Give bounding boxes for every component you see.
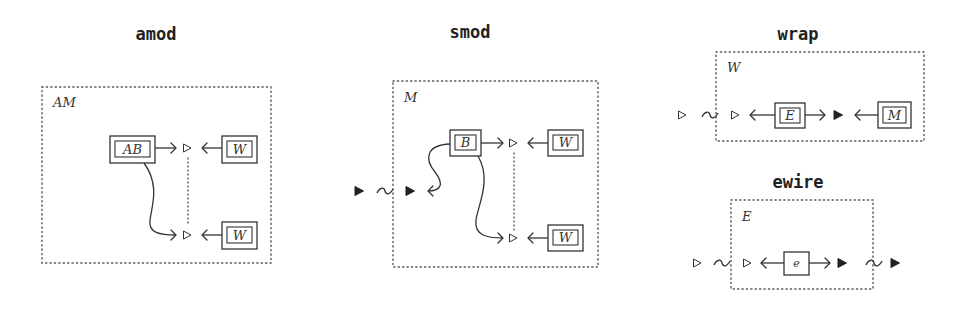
amod-ab-box: AB [110,136,155,163]
ewire-e-label: e [793,257,800,270]
smod-frame-label: M [403,90,418,105]
amod-ab-label: AB [122,142,142,157]
amod-w-box-bottom: W [222,222,257,249]
hollow-triangle-icon [184,144,192,152]
ewire-title: ewire [772,172,823,192]
tilde-icon [866,260,882,266]
hollow-triangle-icon [510,234,518,242]
smod-title: smod [450,22,491,42]
amod-w-label-top: W [233,142,248,157]
diagram-canvas: amod AM AB W W [0,0,964,312]
amod-frame-label: AM [52,95,76,110]
hollow-triangle-icon [510,139,518,147]
wrap-e-box: E [775,103,805,128]
smod-w-box-top: W [548,130,583,156]
ewire-frame-label: E [741,209,752,224]
wrap-title: wrap [778,24,819,44]
smod-panel: smod M B W [355,22,598,267]
smod-w-label-top: W [559,135,574,150]
amod-w-label-bottom: W [233,228,248,243]
filled-triangle-icon [838,259,847,268]
wrap-m-box: M [878,102,911,128]
wrap-e-label: E [784,108,795,123]
hollow-triangle-icon [732,111,740,119]
wrap-frame-label: W [727,60,742,75]
smod-b-label: B [460,135,471,150]
ewire-panel: ewire E e [694,172,900,289]
amod-w-box-top: W [222,136,257,163]
tilde-icon [377,188,393,194]
filled-triangle-icon [355,187,364,196]
hollow-triangle-icon [744,259,752,267]
tilde-icon [714,260,730,266]
wrap-panel: wrap W E M [679,24,925,141]
amod-title: amod [136,24,177,44]
filled-triangle-icon [834,111,843,120]
smod-b-box: B [450,130,481,156]
smod-w-label-bottom: W [559,230,574,245]
amod-panel: amod AM AB W W [42,24,271,263]
hollow-triangle-icon [679,111,687,119]
hollow-triangle-icon [694,259,702,267]
filled-triangle-icon [406,187,415,196]
ewire-e-box: e [784,252,809,275]
hollow-triangle-icon [184,231,192,239]
wrap-m-label: M [887,108,902,123]
smod-w-box-bottom: W [548,225,583,251]
filled-triangle-icon [891,259,900,268]
